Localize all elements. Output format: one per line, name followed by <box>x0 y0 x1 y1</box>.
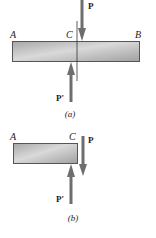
label-p: P <box>88 135 94 145</box>
label-p-prime: P' <box>56 194 64 204</box>
label-b: B <box>135 29 141 40</box>
figure-a: A C B P P' (a) <box>9 0 141 119</box>
label-a: A <box>9 131 17 142</box>
label-p: P <box>88 1 94 11</box>
label-c: C <box>66 29 73 40</box>
shear-diagram: A C B P P' (a) A C P P' (b) <box>0 0 156 238</box>
label-p-prime: P' <box>56 93 64 103</box>
label-c: C <box>69 131 76 142</box>
caption-a: (a) <box>65 109 76 119</box>
label-a: A <box>9 29 17 40</box>
caption-b: (b) <box>68 213 79 223</box>
force-p-arrow-icon <box>79 136 87 176</box>
bar-ab <box>13 42 140 62</box>
force-p-arrow-icon <box>78 0 86 41</box>
figure-b: A C P P' (b) <box>9 131 94 223</box>
force-p-prime-arrow-icon <box>67 62 75 102</box>
force-p-prime-arrow-icon <box>67 164 75 204</box>
bar-ac <box>14 144 78 164</box>
